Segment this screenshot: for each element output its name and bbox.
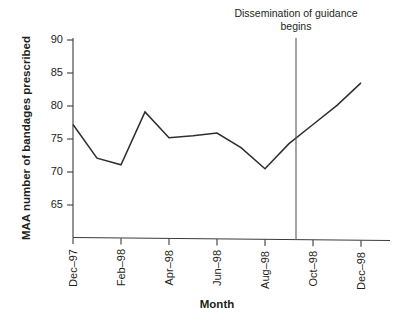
data-series-line: [73, 83, 361, 169]
line-chart-canvas: 90 85 80 75 70 65 Dec–97 Feb–98 Apr–98 J…: [0, 0, 401, 323]
annotation-line-1: Dissemination of guidance: [234, 7, 357, 19]
x-tick-label-jun-98: Jun–98: [211, 250, 223, 286]
y-tick-label-90: 90: [51, 33, 63, 45]
x-tick-label-aug-98: Aug–98: [259, 251, 271, 289]
x-tick-label-apr-98: Apr–98: [163, 250, 175, 285]
x-tick-label-oct-98: Oct–98: [307, 251, 319, 286]
y-axis-ticks: [67, 40, 73, 205]
x-axis-title: Month: [200, 298, 234, 310]
y-tick-label-80: 80: [51, 99, 63, 111]
x-tick-label-dec-97: Dec–97: [67, 249, 79, 287]
x-tick-label-dec-98: Dec–98: [355, 252, 367, 290]
y-tick-label-65: 65: [51, 198, 63, 210]
y-tick-label-75: 75: [51, 132, 63, 144]
y-axis-tick-labels: 90 85 80 75 70 65: [51, 33, 63, 210]
y-tick-label-85: 85: [51, 66, 63, 78]
annotation-line-2: begins: [281, 20, 312, 32]
y-tick-label-70: 70: [51, 165, 63, 177]
y-axis-title: MAA number of bandages prescribed: [20, 36, 32, 240]
chart-figure: 90 85 80 75 70 65 Dec–97 Feb–98 Apr–98 J…: [0, 0, 401, 323]
x-tick-label-feb-98: Feb–98: [115, 249, 127, 286]
x-axis-tick-labels: Dec–97 Feb–98 Apr–98 Jun–98 Aug–98 Oct–9…: [67, 249, 367, 290]
